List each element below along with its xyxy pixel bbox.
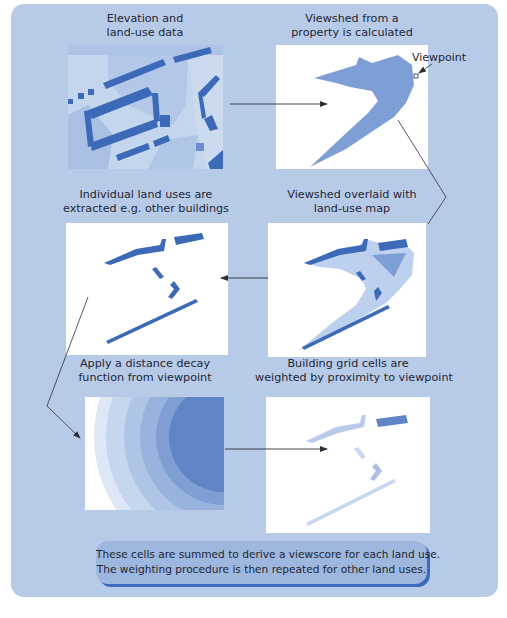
caption-distance-decay: Apply a distance decay function from vie… bbox=[75, 357, 215, 385]
building bbox=[370, 463, 382, 481]
summary-box: These cells are summed to derive a views… bbox=[96, 541, 427, 584]
summary-line: These cells are summed to derive a views… bbox=[96, 541, 427, 562]
building bbox=[174, 233, 204, 245]
caption-line: Elevation and bbox=[80, 12, 210, 26]
extracted-buildings-map bbox=[66, 223, 228, 355]
caption-line: function from viewpoint bbox=[75, 371, 215, 385]
viewshed-overlay-map bbox=[268, 223, 426, 357]
building bbox=[78, 93, 84, 99]
building bbox=[116, 143, 150, 161]
viewshed-map bbox=[276, 45, 428, 169]
building bbox=[196, 143, 204, 151]
building bbox=[168, 281, 180, 299]
distance-decay-map bbox=[85, 397, 224, 510]
caption-line: land-use data bbox=[80, 26, 210, 40]
caption-viewshed-overlay: Viewshed overlaid with land-use map bbox=[282, 188, 422, 216]
elevation-landuse-map bbox=[68, 45, 223, 169]
building bbox=[160, 115, 170, 127]
caption-elevation-landuse: Elevation and land-use data bbox=[80, 12, 210, 40]
caption-line: Apply a distance decay bbox=[75, 357, 215, 371]
caption-line: property is calculated bbox=[282, 26, 422, 40]
building bbox=[376, 415, 408, 427]
viewshed-area bbox=[310, 55, 414, 167]
building bbox=[306, 415, 366, 443]
caption-line: Building grid cells are bbox=[255, 357, 441, 371]
caption-line: extracted e.g. other buildings bbox=[60, 202, 232, 216]
caption-line: land-use map bbox=[282, 202, 422, 216]
weighted-cells-map bbox=[266, 397, 430, 533]
building bbox=[152, 267, 164, 279]
building bbox=[104, 239, 166, 265]
caption-weighted-cells: Building grid cells are weighted by prox… bbox=[255, 357, 441, 385]
caption-line: Individual land uses are bbox=[60, 188, 232, 202]
summary-line: The weighting procedure is then repeated… bbox=[96, 562, 427, 577]
building bbox=[354, 447, 366, 459]
caption-line: Viewshed overlaid with bbox=[282, 188, 422, 202]
caption-line: Viewshed from a bbox=[282, 12, 422, 26]
building bbox=[68, 99, 73, 104]
caption-viewshed: Viewshed from a property is calculated bbox=[282, 12, 422, 40]
building bbox=[88, 89, 94, 95]
building bbox=[306, 479, 396, 526]
viewpoint-label: Viewpoint bbox=[412, 51, 466, 64]
building bbox=[302, 305, 390, 350]
viewpoint-marker bbox=[414, 74, 418, 78]
building bbox=[106, 299, 198, 344]
caption-extract-landuses: Individual land uses are extracted e.g. … bbox=[60, 188, 232, 216]
caption-line: weighted by proximity to viewpoint bbox=[255, 371, 441, 385]
